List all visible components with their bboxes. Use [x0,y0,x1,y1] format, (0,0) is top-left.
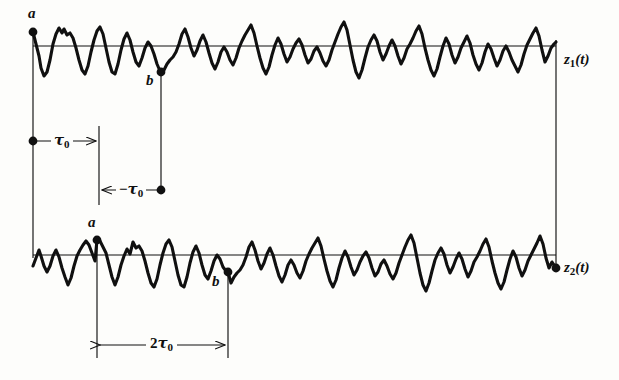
label-b-z2: b [212,274,220,289]
dot-negtau0-end [157,186,166,195]
tau-glyph: τ [54,131,64,149]
tau0-subscript: 0 [64,138,70,150]
waveform-z2 [33,235,556,291]
dot-tau0-origin [29,137,38,146]
tau-glyph: τ [158,334,168,352]
tau0-subscript: 0 [168,341,174,353]
label-a-z2: a [88,215,96,230]
dot-b-z2 [224,268,233,277]
label-signal-z2: z2(t) [564,260,590,277]
z1-argument: (t) [575,51,589,67]
figure-canvas [0,0,619,380]
label-tau0: τ0 [51,133,73,150]
tau-glyph: τ [128,180,138,198]
z2-argument: (t) [575,259,589,275]
dot-a-z1 [29,28,38,37]
dot-z2-end [552,264,561,273]
label-2tau0: 2τ0 [146,336,177,353]
label-a-z1: a [28,6,36,21]
minus-sign: − [119,181,128,197]
label-signal-z1: z1(t) [564,52,590,69]
dot-a-z2 [93,236,102,245]
figure-root: a b a b τ0 −τ0 2τ0 z1(t) z2(t) [0,0,619,380]
label-neg-tau0: −τ0 [116,182,146,199]
label-b-z1: b [146,73,154,88]
waveform-z1 [33,22,556,78]
dot-b-z1 [157,68,166,77]
coefficient-two: 2 [150,335,158,351]
tau0-subscript: 0 [138,187,144,199]
construction-lines [33,32,556,358]
